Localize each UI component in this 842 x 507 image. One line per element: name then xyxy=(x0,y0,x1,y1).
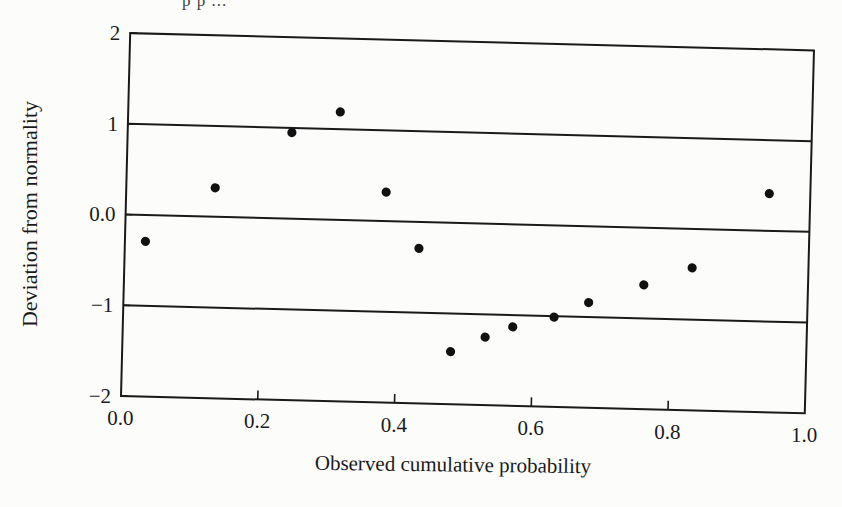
x-axis-label: Observed cumulative probability xyxy=(315,451,592,479)
y-tick-label: 1 xyxy=(107,111,118,136)
data-point xyxy=(211,183,220,192)
data-point xyxy=(446,347,455,356)
reference-line xyxy=(126,215,810,232)
data-point xyxy=(141,237,150,246)
x-tick-label: 0.6 xyxy=(518,416,544,441)
data-point xyxy=(287,128,296,137)
y-tick-label: −2 xyxy=(89,383,111,408)
plot-area xyxy=(0,0,842,507)
data-points xyxy=(138,102,776,364)
data-point xyxy=(414,244,423,253)
data-point xyxy=(336,107,345,116)
x-tick-label: 0.8 xyxy=(654,419,680,444)
y-tick-label: 0.0 xyxy=(89,202,115,227)
x-tick-label: 0.2 xyxy=(244,409,270,434)
reference-line xyxy=(123,305,807,322)
data-point xyxy=(639,280,648,289)
data-point xyxy=(687,263,696,272)
data-point xyxy=(480,332,489,341)
data-point xyxy=(765,189,774,198)
y-tick-label: −1 xyxy=(91,293,113,318)
reference-lines xyxy=(123,124,811,323)
x-tick-label: 0.4 xyxy=(381,412,407,437)
y-axis-label: Deviation from normality xyxy=(17,101,43,327)
reference-line xyxy=(128,124,812,141)
data-point xyxy=(584,298,593,307)
data-point xyxy=(508,322,517,331)
x-tick-label: 1.0 xyxy=(791,423,817,448)
y-tick-label: 2 xyxy=(110,20,121,45)
data-point xyxy=(381,187,390,196)
data-point xyxy=(549,312,558,321)
x-tick-label: 0.0 xyxy=(107,405,133,430)
normal-probability-deviation-chart: p p ... 0.00.20.40.60.81.0 210.0−1−2 Dev… xyxy=(0,0,842,507)
